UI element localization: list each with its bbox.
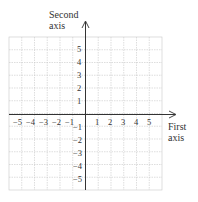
x-tick: −3 [39,117,48,127]
y-tick: 4 [77,57,82,67]
x-ticks-negative: −5 −4 −3 −2 −1 [13,117,74,127]
y-tick: −4 [73,161,83,171]
x-axis-label-line1: First [168,121,187,132]
y-tick: −2 [73,135,82,145]
x-tick: 4 [134,117,139,127]
coordinate-plane: Second axis First axis −5 −4 −3 −2 −1 1 … [0,0,198,202]
y-tick: 2 [77,83,81,93]
x-tick: −4 [26,117,36,127]
x-ticks-positive: 1 2 3 4 5 [95,117,151,127]
x-tick: 3 [121,117,125,127]
y-tick: 3 [77,70,81,80]
y-tick: −1 [73,122,82,132]
y-ticks-positive: 5 4 3 2 1 [77,44,82,106]
x-tick: 5 [147,117,151,127]
y-tick: −3 [73,148,82,158]
x-axis-label-line2: axis [168,132,184,143]
x-tick: 1 [95,117,99,127]
x-tick: 2 [108,117,112,127]
y-tick: 5 [77,44,81,54]
y-axis-label-line1: Second [49,9,78,20]
y-tick: 1 [77,96,81,106]
y-tick: −5 [73,174,82,184]
y-ticks-negative: −1 −2 −3 −4 −5 [73,122,83,184]
x-tick: −2 [52,117,61,127]
x-tick: −5 [13,117,22,127]
y-axis-label-line2: axis [49,20,65,31]
